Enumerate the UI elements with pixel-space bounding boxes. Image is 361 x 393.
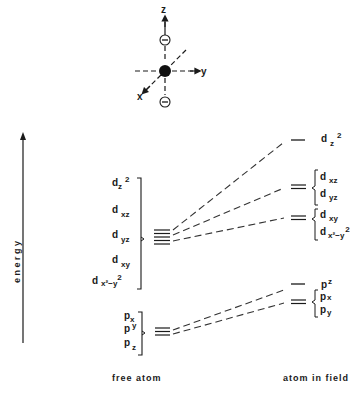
- x-axis-back: [169, 50, 186, 67]
- field-orbital-dz2: dz2: [321, 131, 342, 148]
- energy-arrow-icon: [20, 132, 26, 140]
- central-atom: [159, 65, 171, 77]
- field-orbital-dx2-y2: dx²−y2: [320, 225, 350, 240]
- x-arrow: [144, 86, 150, 92]
- field-orbital-pz: pz: [321, 277, 332, 290]
- free-atom-d-orbitals: dz2 dxz dyz dxy dx²−y2: [92, 175, 170, 289]
- energy-label: energy: [12, 238, 22, 283]
- orbital-dyz: dyz: [112, 229, 130, 244]
- y-axis-label: y: [201, 66, 207, 77]
- free-atom-p-levels: [155, 328, 170, 335]
- brace-dxy-dx2y2: [312, 209, 318, 240]
- free-atom-d-levels: [154, 230, 170, 244]
- field-orbital-dxz: dxz: [320, 171, 338, 185]
- orbital-dxz: dxz: [112, 204, 130, 219]
- crystal-field-diagram: z y x energy dz2 dxz dyz dxy dx²−y2 px p…: [0, 0, 361, 393]
- orbital-dz2: dz2: [112, 175, 130, 191]
- coordinate-axes-figure: z y x: [135, 4, 207, 107]
- energy-axis: energy: [12, 132, 26, 343]
- free-atom-label: free atom: [112, 373, 162, 383]
- atom-in-field-label: atom in field: [283, 373, 349, 383]
- brace-dxz-dyz: [312, 170, 318, 205]
- orbital-dx2-y2: dx²−y2: [92, 273, 122, 288]
- z-axis-label: z: [161, 4, 166, 15]
- d-bracket: [137, 178, 141, 289]
- field-orbital-dxy: dxy: [320, 209, 339, 223]
- field-orbital-px: px: [320, 291, 332, 302]
- orbital-dxy: dxy: [112, 254, 131, 269]
- correlation-lines: [173, 143, 284, 334]
- field-orbital-py: py: [320, 304, 332, 317]
- p-bracket: [138, 312, 142, 355]
- orbital-pz: pz: [124, 337, 136, 352]
- atom-in-field-levels: dz2 dxz dyz dxy dx²−y2 pz px py: [291, 131, 350, 317]
- free-atom-p-orbitals: px py pz: [124, 310, 170, 355]
- field-orbital-dyz: dyz: [320, 188, 338, 202]
- brace-px-py: [312, 290, 318, 317]
- x-axis-label: x: [137, 91, 143, 102]
